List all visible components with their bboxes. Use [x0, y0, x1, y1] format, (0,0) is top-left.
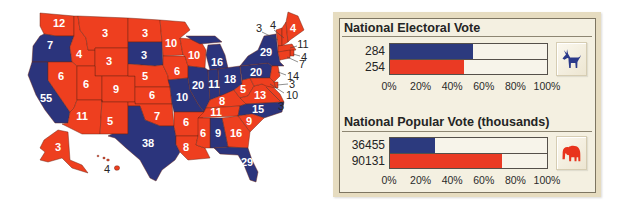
state-ri[interactable]: [290, 50, 294, 56]
ev-label-sd: 3: [141, 49, 147, 61]
ev-label-nh: 4: [270, 19, 276, 31]
ev-label-in: 11: [208, 78, 220, 90]
electoral-vote-title: National Electoral Vote: [344, 21, 480, 36]
electoral-map: 12 7 55 4 6 3 3 6 11 9 5 3 3 5 6 7 38 10…: [0, 0, 330, 200]
ev-label-ut: 6: [83, 78, 89, 90]
ev-label-tx: 38: [142, 137, 154, 149]
leader-line-ct: [287, 57, 298, 62]
ev-label-oh: 18: [224, 73, 236, 85]
electoral-rep-value: 254: [347, 59, 385, 75]
popular-vote-title: National Popular Vote (thousands): [344, 115, 549, 130]
popular-dem-bar: [390, 138, 435, 153]
ev-label-nv: 6: [58, 70, 64, 82]
ev-label-mt: 3: [102, 27, 108, 39]
state-nm[interactable]: [100, 100, 128, 134]
electoral-rep-bar: [390, 60, 464, 74]
ev-label-id: 4: [76, 48, 83, 60]
state-ct[interactable]: [278, 50, 290, 60]
ev-label-ms: 6: [200, 127, 206, 139]
donkey-icon: [560, 47, 583, 71]
electoral-dem-bar: [390, 44, 473, 59]
ev-label-hi: 4: [104, 163, 110, 175]
ev-label-la: 8: [183, 141, 189, 153]
ev-label-wi: 10: [188, 49, 200, 61]
ev-label-fl: 29: [241, 156, 253, 168]
ev-label-va: 13: [254, 89, 266, 101]
ev-label-mo: 10: [176, 91, 188, 103]
ev-label-sc: 9: [246, 115, 252, 127]
ev-label-ak: 3: [55, 141, 61, 153]
ev-label-mn: 10: [165, 37, 177, 49]
popular-rep-bar: [390, 154, 502, 168]
ev-label-tn: 11: [210, 106, 222, 118]
ev-label-mi: 16: [211, 56, 223, 68]
ev-label-az: 11: [76, 110, 88, 122]
electoral-axis-tick: 100%: [527, 80, 567, 92]
ev-label-ia: 6: [174, 65, 180, 77]
ev-label-wa: 12: [53, 17, 65, 29]
ev-label-ne: 5: [142, 70, 148, 82]
popular-axis-tick: 100%: [527, 174, 567, 186]
ev-label-ca: 55: [40, 92, 52, 104]
state-ak[interactable]: [40, 130, 88, 173]
republican-tile: [556, 136, 587, 170]
leader-line-de: [277, 84, 288, 85]
ev-label-ma: 11: [297, 38, 308, 50]
ev-label-al: 9: [215, 127, 221, 139]
ev-label-ks: 6: [149, 89, 155, 101]
ev-label-wy: 3: [106, 55, 112, 67]
ev-label-me: 4: [290, 22, 297, 34]
ev-label-ct: 7: [299, 58, 305, 70]
ev-label-or: 7: [47, 39, 53, 51]
popular-rep-value: 90131: [347, 153, 385, 169]
ev-label-il: 20: [192, 79, 204, 91]
ev-label-wv: 5: [240, 83, 246, 95]
ev-label-nc: 15: [252, 103, 264, 115]
ev-label-nd: 3: [142, 27, 148, 39]
popular-dem-value: 36455: [347, 137, 385, 153]
popular-divider: [342, 131, 592, 132]
ev-label-ga: 16: [230, 127, 242, 139]
ev-label-co: 9: [113, 83, 119, 95]
ev-label-ar: 6: [183, 116, 189, 128]
ev-label-pa: 20: [250, 66, 262, 78]
ev-label-nm: 5: [107, 115, 113, 127]
ev-label-vt: 3: [256, 22, 262, 34]
electoral-dem-value: 284: [347, 43, 385, 59]
ev-label-ny: 29: [260, 46, 272, 58]
ev-label-dc: 3: [278, 100, 284, 112]
democrat-tile: [556, 42, 587, 76]
electoral-bar-chart: [389, 43, 548, 75]
elephant-icon: [560, 141, 583, 165]
ev-label-ok: 7: [154, 110, 160, 122]
electoral-divider: [342, 36, 592, 37]
popular-bar-chart: [389, 137, 548, 169]
ev-label-md: 10: [286, 89, 298, 101]
